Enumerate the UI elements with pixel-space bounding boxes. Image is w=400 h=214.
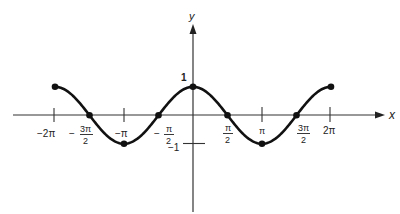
tick-label-neg-2pi: −2π — [37, 128, 55, 139]
data-point — [224, 112, 231, 119]
data-point — [155, 112, 162, 119]
tick-label-neg-pi: −π — [115, 128, 128, 139]
x-axis-label: x — [388, 108, 396, 122]
data-point — [190, 84, 197, 91]
svg-text:−: − — [69, 128, 75, 139]
tick-label-2pi: 2π — [323, 125, 336, 136]
svg-text:2: 2 — [83, 136, 88, 146]
data-point — [52, 84, 59, 91]
y-axis-label: y — [188, 10, 196, 22]
tick-label-pi-over-2: π 2 — [223, 123, 233, 145]
data-point — [293, 112, 300, 119]
y-tick-label-one: 1 — [181, 72, 187, 83]
tick-label-neg-3pi-over-2: − 3π 2 — [69, 124, 93, 146]
svg-text:2: 2 — [301, 135, 306, 145]
data-point — [259, 141, 266, 148]
tick-label-3pi-over-2: 3π 2 — [297, 123, 310, 145]
x-axis-arrow-icon — [375, 112, 385, 119]
svg-text:−: − — [154, 128, 160, 139]
svg-text:3π: 3π — [298, 123, 309, 133]
cosine-graph: x y −2π − 3π 2 −π − π 2 π 2 π 3π 2 2π 1 … — [0, 0, 400, 214]
data-point — [328, 84, 335, 91]
data-point — [86, 112, 93, 119]
svg-text:π: π — [225, 123, 231, 133]
y-axis-arrow-icon — [190, 24, 197, 34]
y-tick-label-neg-one: −1 — [168, 142, 180, 153]
svg-text:3π: 3π — [80, 124, 91, 134]
svg-text:2: 2 — [225, 135, 230, 145]
data-point — [121, 141, 128, 148]
svg-text:π: π — [166, 124, 172, 134]
tick-label-pi: π — [259, 126, 265, 136]
